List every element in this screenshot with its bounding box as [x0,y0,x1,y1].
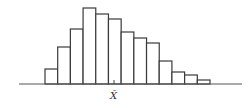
histogram-bar [185,75,198,84]
histogram-bar [96,14,109,84]
histogram-bar [83,8,96,84]
histogram-bar [108,19,121,84]
histogram-bar [134,38,147,84]
histogram-chart: X̄ [0,0,251,108]
histogram-bars [45,8,210,84]
histogram-bar [45,69,58,84]
histogram-bar [70,29,83,84]
histogram-bar [159,61,172,84]
histogram-bar [58,47,71,84]
histogram-bar [172,72,185,84]
histogram-bar [147,43,160,84]
mean-label: X̄ [109,90,118,101]
histogram-bar [121,32,134,84]
